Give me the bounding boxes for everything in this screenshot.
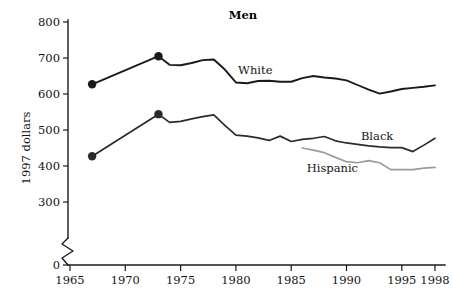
y-tick-label: 700 (38, 51, 60, 65)
line-chart: Men 1997 dollars 8007006005004003000 196… (0, 0, 453, 295)
x-tick-label: 1990 (332, 273, 361, 287)
y-tick-label: 600 (38, 87, 60, 101)
series-label-hispanic: Hispanic (307, 161, 358, 175)
y-tick-label: 400 (38, 159, 60, 173)
y-axis-title-group: 1997 dollars (19, 111, 33, 184)
chart-title: Men (229, 8, 258, 22)
x-tick-label: 1980 (221, 273, 250, 287)
series-label-white: White (238, 63, 273, 77)
y-axis: 8007006005004003000 (38, 15, 73, 272)
x-tick-label: 1998 (420, 273, 449, 287)
x-tick-label: 1975 (166, 273, 195, 287)
x-tick-label: 1985 (277, 273, 306, 287)
y-tick-label: 500 (38, 123, 60, 137)
series-label-black: Black (361, 129, 394, 143)
data-point-marker (154, 110, 162, 118)
x-axis: 19651970197519801985199019951998 (55, 265, 449, 287)
x-tick-label: 1995 (387, 273, 416, 287)
y-tick-label: 0 (53, 258, 60, 272)
y-tick-label: 300 (38, 195, 60, 209)
y-tick-label: 800 (38, 15, 60, 29)
data-point-marker (154, 52, 162, 60)
y-axis-title: 1997 dollars (19, 111, 33, 184)
y-axis-break-icon (62, 238, 73, 265)
chart-title-group: Men (229, 8, 258, 22)
data-point-marker (88, 80, 96, 88)
data-point-marker (88, 152, 96, 160)
chart-page: Men 1997 dollars 8007006005004003000 196… (0, 0, 453, 295)
x-tick-label: 1970 (111, 273, 140, 287)
x-tick-label: 1965 (55, 273, 84, 287)
